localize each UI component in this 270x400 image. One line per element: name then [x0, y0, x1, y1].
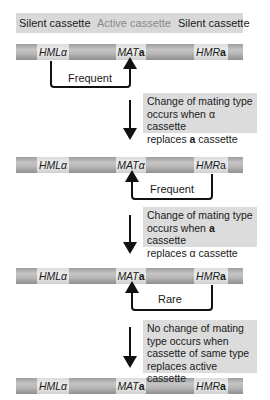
legend-active: Active cassette — [97, 17, 171, 29]
chromosome-3: HMLα MATa HMRa — [16, 268, 243, 284]
hml-cassette: HMLα — [37, 44, 69, 60]
hml-cassette: HMLα — [37, 157, 69, 173]
mat-cassette: MATa — [116, 378, 146, 394]
note-no-change: No change of mating type occurs when cas… — [143, 320, 257, 373]
hmr-cassette: HMRa — [194, 157, 228, 173]
mat-cassette: MATa — [116, 268, 146, 284]
legend-silent-right: Silent cassette — [178, 17, 250, 29]
legend-silent-left: Silent cassette — [19, 17, 91, 29]
note-alpha-replaces-a: Change of mating type occurs when α cass… — [143, 93, 257, 133]
hmr-cassette: HMRa — [194, 268, 228, 284]
transfer-label-3: Rare — [158, 293, 182, 305]
hml-cassette: HMLα — [37, 378, 69, 394]
transfer-label-2: Frequent — [150, 183, 194, 195]
cassette-legend: Silent cassette Active cassette Silent c… — [16, 13, 243, 33]
note-a-replaces-alpha: Change of mating type occurs when a cass… — [143, 207, 257, 247]
hml-cassette: HMLα — [37, 268, 69, 284]
mat-cassette: MATa — [116, 44, 146, 60]
chromosome-2: HMLα MATα HMRa — [16, 157, 243, 173]
chromosome-1: HMLα MATa HMRa — [16, 44, 243, 60]
transfer-label-1: Frequent — [68, 72, 112, 84]
hmr-cassette: HMRa — [194, 44, 228, 60]
mat-cassette: MATα — [116, 157, 146, 173]
